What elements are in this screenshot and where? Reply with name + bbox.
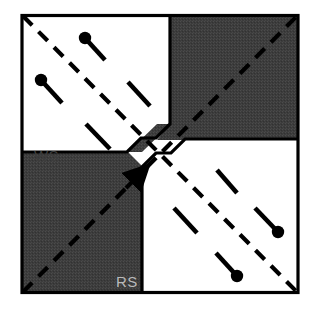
- figure-root: WS RS: [0, 0, 316, 316]
- bottom-left-dark-region: [22, 152, 142, 293]
- tick-segment-1-dot: [79, 32, 91, 44]
- tick-segment-6-dot: [272, 226, 284, 238]
- ws-label: WS: [34, 147, 59, 164]
- schematic-diagram: WS RS: [0, 0, 316, 316]
- tick-segment-2-dot: [35, 74, 47, 86]
- tick-segment-8-dot: [231, 270, 243, 282]
- rs-label: RS: [116, 273, 138, 290]
